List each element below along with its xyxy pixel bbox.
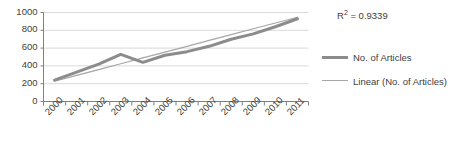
chart-plot-area [0,0,461,146]
gridlines-group [44,13,309,84]
y-axis-tick-label: 200 [0,78,38,88]
y-axis-tick-label: 800 [0,24,38,34]
y-axis-tick-label: 400 [0,60,38,70]
y-axis-tick-label: 600 [0,42,38,52]
y-axis-tick-label: 1000 [0,7,38,17]
legend-entry-label: Linear (No. of Articles) [353,76,447,87]
r-squared-base: R [337,10,344,21]
r-squared-annotation: R2 = 0.9339 [337,9,388,21]
series-line [55,17,298,81]
r-squared-value: = 0.9339 [348,10,388,21]
legend-color-swatch [322,80,348,81]
y-axis-tick-label: 0 [0,96,38,106]
chart-container: 02004006008001000 2000200120022003200420… [0,0,461,146]
legend-entry-label: No. of Articles [353,52,412,63]
series-lines-group [55,17,298,81]
legend-color-swatch [322,56,348,59]
